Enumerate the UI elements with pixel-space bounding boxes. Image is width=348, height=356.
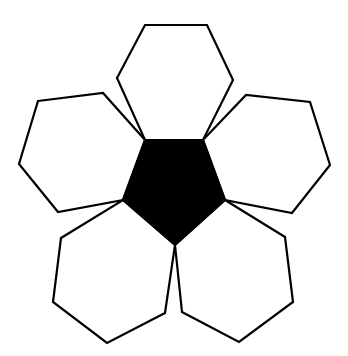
pentagon-hexagon-diagram [0, 0, 348, 356]
hexagon-top [117, 25, 233, 140]
